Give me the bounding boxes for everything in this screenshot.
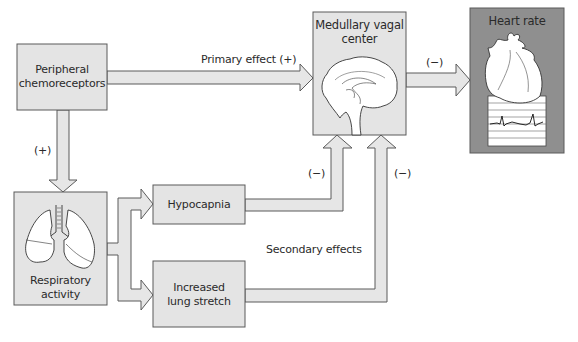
medullary-vagal-center-label: Medullary vagal center (313, 18, 406, 46)
peripheral-to-respiratory-sign: (+) (34, 144, 51, 157)
arrow-hypocapnia-to-medullary (245, 135, 352, 211)
respiratory-activity-label: Respiratory activity (14, 274, 107, 302)
arrow-peripheral-to-respiratory (49, 110, 77, 192)
hypocapnia-label: Hypocapnia (153, 198, 245, 212)
medullary-to-heart-sign: (−) (426, 56, 443, 69)
primary-effect-label: Primary effect (+) (201, 53, 296, 66)
lung-stretch-to-medullary-sign: (−) (394, 167, 411, 180)
lung-stretch-label: Increased lung stretch (153, 281, 245, 309)
heart-rate-label: Heart rate (470, 14, 564, 28)
arrow-lung-stretch-to-medullary (245, 135, 396, 302)
arrow-primary-effect (107, 64, 313, 91)
ecg-strip (488, 96, 546, 146)
peripheral-chemoreceptors-label: Peripheral chemoreceptors (17, 63, 107, 91)
arrow-respiratory-branch (107, 189, 153, 310)
hypocapnia-to-medullary-sign: (−) (308, 167, 325, 180)
secondary-effects-label: Secondary effects (266, 243, 362, 256)
